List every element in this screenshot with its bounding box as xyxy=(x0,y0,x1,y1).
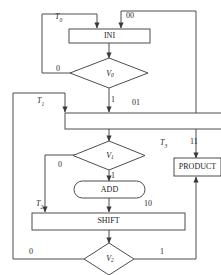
state-label-t0: T0 xyxy=(55,13,62,23)
state-label-t2: T2 xyxy=(36,200,43,210)
branch-label-v2-true: 1 xyxy=(160,248,164,256)
state-code-11: 11 xyxy=(190,138,198,146)
state-label-t1: T1 xyxy=(37,97,44,107)
branch-label-v2-false: 0 xyxy=(29,248,33,256)
node-state-01-box[interactable] xyxy=(65,113,221,129)
node-add-label: ADD xyxy=(101,185,119,194)
node-ini-label: INI xyxy=(104,31,115,40)
state-label-t3: T3 xyxy=(160,139,167,149)
flowchart-canvas: INI V0 V1 ADD SHIFT V2 PRODUCT T0 00 xyxy=(0,0,221,275)
state-code-01: 01 xyxy=(132,99,140,107)
state-code-10: 10 xyxy=(144,200,152,208)
node-shift-label: SHIFT xyxy=(97,216,119,225)
node-product-label: PRODUCT xyxy=(179,162,216,171)
branch-label-v0-false: 0 xyxy=(56,65,60,73)
state-code-00: 00 xyxy=(126,12,134,20)
branch-label-v0-true: 1 xyxy=(111,96,115,104)
branch-label-v1-true: 1 xyxy=(111,172,115,180)
flowchart-svg: INI V0 V1 ADD SHIFT V2 PRODUCT xyxy=(0,0,221,275)
branch-label-v1-false: 0 xyxy=(58,161,62,169)
